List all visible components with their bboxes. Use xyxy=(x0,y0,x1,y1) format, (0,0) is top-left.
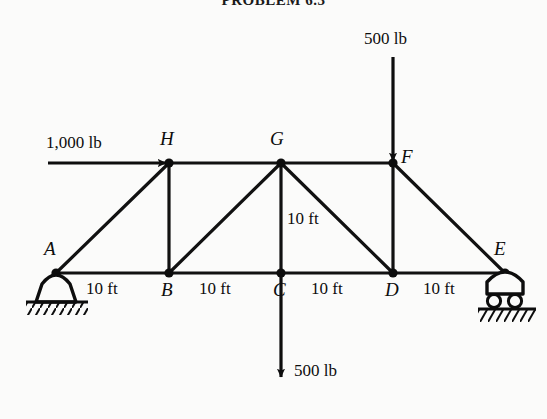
joint-dot-B xyxy=(164,268,173,277)
joint-label-E: E xyxy=(494,238,506,260)
truss-diagram-figure: PROBLEM 6.3 xyxy=(0,0,547,419)
roller-support-E-wheel-left xyxy=(487,294,500,307)
joint-label-D: D xyxy=(385,279,399,301)
load-label-1000-lb: 1,000 lb xyxy=(46,133,102,153)
pin-support-A-body xyxy=(36,275,76,302)
dimension-label-C-D: 10 ft xyxy=(311,279,343,299)
joint-label-G: G xyxy=(270,128,284,150)
joint-dot-D xyxy=(388,268,397,277)
dimension-label-D-E: 10 ft xyxy=(423,279,455,299)
dimension-label-G-C: 10 ft xyxy=(287,209,319,229)
pin-support-A-hatching xyxy=(26,302,88,315)
load-label-500-lb-bottom: 500 lb xyxy=(294,361,337,381)
truss-drawing-canvas xyxy=(0,0,547,419)
joint-label-B: B xyxy=(161,279,173,301)
member-B-G xyxy=(169,163,281,273)
joint-dot-G xyxy=(276,158,285,167)
load-label-500-lb-top: 500 lb xyxy=(364,29,407,49)
joint-label-C: C xyxy=(273,279,286,301)
truss-members-group xyxy=(56,163,505,273)
joint-label-F: F xyxy=(401,146,413,168)
roller-support-E xyxy=(478,272,536,322)
dimension-label-B-C: 10 ft xyxy=(199,279,231,299)
joint-label-A: A xyxy=(44,238,56,260)
member-F-E xyxy=(393,163,505,273)
dimension-label-A-B: 10 ft xyxy=(86,279,118,299)
roller-support-E-wheel-right xyxy=(508,294,521,307)
pin-support-A xyxy=(26,275,88,315)
joint-label-H: H xyxy=(160,128,174,150)
roller-support-E-hatching xyxy=(478,309,536,322)
load-arrows-group xyxy=(48,57,393,377)
roller-support-E-body xyxy=(487,272,523,294)
member-A-H xyxy=(56,163,169,273)
